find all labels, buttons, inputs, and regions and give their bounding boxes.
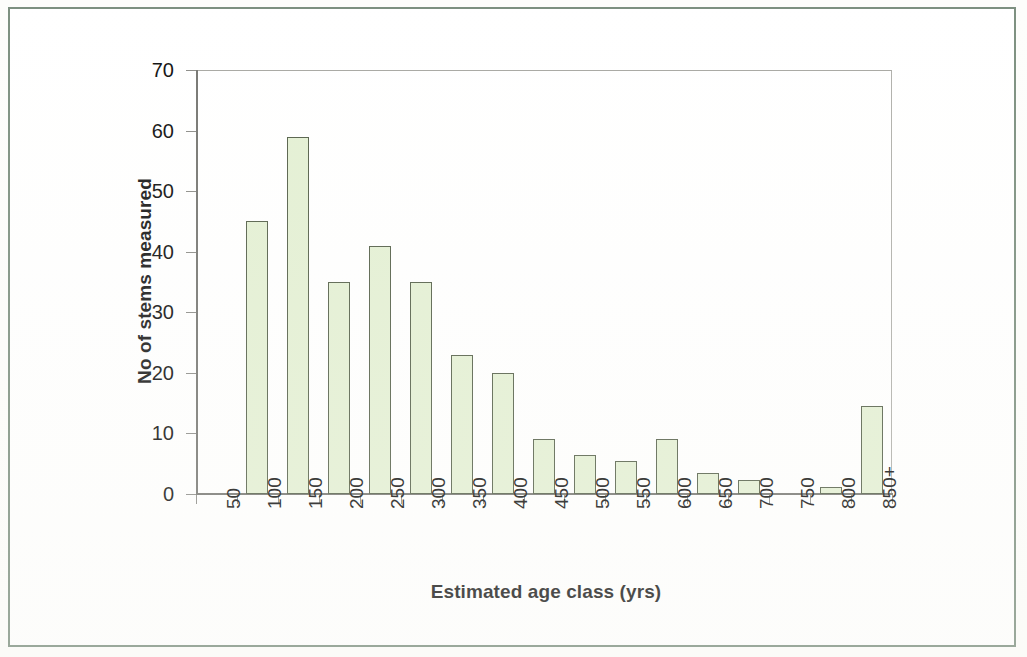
bar-chart-figure: No of stems measured 010203040506070 501… [0, 0, 1027, 657]
x-tick-label: 550 [633, 477, 655, 509]
y-axis-line [196, 70, 198, 495]
y-tick-mark [186, 70, 196, 71]
x-tick-label: 100 [264, 477, 286, 509]
y-tick-label: 0 [118, 483, 174, 506]
y-tick-mark [186, 312, 196, 313]
bar [451, 355, 473, 494]
y-axis-title: No of stems measured [134, 131, 156, 431]
bar [328, 282, 350, 494]
y-tick-label: 30 [118, 301, 174, 324]
x-tick-label: 50 [223, 488, 245, 509]
x-tick-label: 450 [551, 477, 573, 509]
bar [246, 221, 268, 494]
x-axis-title: Estimated age class (yrs) [196, 581, 896, 603]
x-tick-label: 400 [510, 477, 532, 509]
y-tick-label: 70 [118, 59, 174, 82]
y-tick-label: 20 [118, 361, 174, 384]
bar [492, 373, 514, 494]
screenshot-page: No of stems measured 010203040506070 501… [0, 0, 1027, 657]
y-tick-mark [186, 191, 196, 192]
bar [287, 137, 309, 494]
y-tick-label: 40 [118, 240, 174, 263]
x-tick-label: 350 [469, 477, 491, 509]
bar [410, 282, 432, 494]
y-tick-label: 60 [118, 119, 174, 142]
x-tick-label: 300 [428, 477, 450, 509]
x-tick-label: 500 [592, 477, 614, 509]
x-tick-label: 150 [305, 477, 327, 509]
x-tick-label: 650 [715, 477, 737, 509]
bar [369, 246, 391, 494]
y-tick-mark [186, 494, 196, 495]
x-tick-label: 800 [838, 477, 860, 509]
y-tick-label: 10 [118, 422, 174, 445]
x-tick-label: 850+ [879, 466, 901, 509]
x-tick-label: 250 [387, 477, 409, 509]
y-tick-mark [186, 433, 196, 434]
x-tick-label: 750 [797, 477, 819, 509]
x-tick-label: 700 [756, 477, 778, 509]
x-tick-label: 200 [346, 477, 368, 509]
x-tick-mark [196, 495, 197, 504]
y-tick-mark [186, 373, 196, 374]
y-tick-mark [186, 131, 196, 132]
y-tick-label: 50 [118, 180, 174, 203]
x-tick-label: 600 [674, 477, 696, 509]
y-tick-mark [186, 252, 196, 253]
